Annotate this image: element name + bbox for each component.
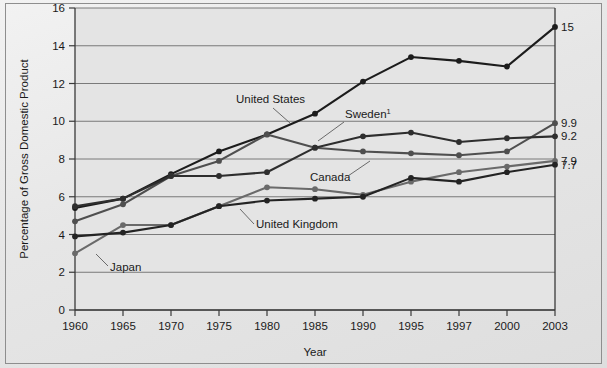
data-point [264, 169, 270, 175]
y-tick-label: 2 [59, 266, 65, 278]
y-tick-label: 4 [59, 229, 66, 241]
data-point [72, 233, 78, 239]
data-point [456, 139, 462, 145]
x-tick-label: 1965 [110, 320, 136, 332]
label-sweden: Sweden1 [345, 107, 391, 121]
data-point [312, 145, 318, 151]
label-united-states: United States [236, 93, 305, 105]
x-tick-label: 1975 [206, 320, 232, 332]
data-point [504, 169, 510, 175]
data-point [216, 203, 222, 209]
data-point [552, 24, 558, 30]
y-axis-title: Percentage of Gross Domestic Product [18, 58, 30, 258]
y-tick-label: 6 [59, 191, 65, 203]
end-value-label: 9.9 [561, 117, 577, 129]
y-tick-label: 0 [59, 304, 65, 316]
data-point [504, 149, 510, 155]
data-point [360, 133, 366, 139]
data-point [72, 203, 78, 209]
data-point [456, 58, 462, 64]
x-tick-label: 1997 [446, 320, 472, 332]
data-point [312, 196, 318, 202]
y-tick-label: 10 [52, 115, 65, 127]
data-point [504, 64, 510, 70]
data-point [216, 158, 222, 164]
data-point [552, 162, 558, 168]
y-tick-label: 8 [59, 153, 65, 165]
data-point [504, 135, 510, 141]
data-point [264, 132, 270, 138]
end-value-label: 15 [561, 21, 574, 33]
x-tick-label: 1985 [302, 320, 328, 332]
y-tick-label: 14 [52, 40, 65, 52]
data-point [552, 120, 558, 126]
label-japan: Japan [110, 261, 141, 273]
data-point [456, 179, 462, 185]
data-point [312, 111, 318, 117]
data-point [264, 184, 270, 190]
x-tick-label: 1970 [158, 320, 184, 332]
data-point [408, 54, 414, 60]
x-tick-label: 1995 [398, 320, 424, 332]
x-tick-label: 1980 [254, 320, 280, 332]
y-tick-label: 12 [52, 78, 65, 90]
data-point [408, 175, 414, 181]
data-point [312, 186, 318, 192]
data-point [120, 201, 126, 207]
data-point [360, 79, 366, 85]
x-tick-label: 2003 [542, 320, 568, 332]
data-point [72, 218, 78, 224]
x-tick-label: 2000 [494, 320, 520, 332]
end-value-label: 9.2 [561, 130, 577, 142]
data-point [456, 152, 462, 158]
end-value-label: 7.7 [561, 159, 577, 171]
data-point [168, 173, 174, 179]
data-point [264, 198, 270, 204]
data-point [216, 173, 222, 179]
data-point [408, 130, 414, 136]
label-canada: Canada [310, 171, 351, 183]
superscript-marker: 1 [387, 107, 391, 116]
data-point [120, 230, 126, 236]
chart-figure: 0246810121416196019651970197519801985199… [0, 0, 607, 368]
data-point [408, 150, 414, 156]
data-point [216, 149, 222, 155]
data-point [120, 196, 126, 202]
data-point [552, 133, 558, 139]
line-chart: 0246810121416196019651970197519801985199… [0, 0, 607, 368]
x-axis-title: Year [303, 346, 326, 358]
label-united-kingdom: United Kingdom [256, 218, 338, 230]
data-point [120, 222, 126, 228]
data-point [504, 164, 510, 170]
data-point [168, 222, 174, 228]
data-point [360, 149, 366, 155]
x-tick-label: 1990 [350, 320, 376, 332]
data-point [456, 169, 462, 175]
x-tick-label: 1960 [62, 320, 88, 332]
data-point [72, 250, 78, 256]
data-point [360, 194, 366, 200]
y-tick-label: 16 [52, 2, 65, 14]
